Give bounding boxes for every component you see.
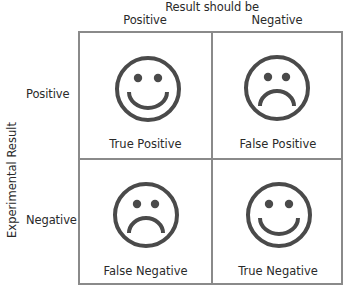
- confusion-matrix-grid: True Positive False Positive False Negat…: [78, 31, 343, 285]
- cell-label: False Positive: [213, 137, 343, 151]
- smiley-face-icon: [244, 180, 314, 250]
- cell-false-positive: False Positive: [213, 33, 343, 158]
- row-label-positive: Positive: [26, 87, 70, 101]
- cell-label: True Positive: [80, 137, 211, 151]
- frowning-face-icon: [111, 180, 181, 250]
- smiley-face-icon: [113, 54, 183, 124]
- cell-true-negative: True Negative: [213, 160, 343, 285]
- frowning-face-icon: [242, 53, 312, 123]
- cell-label: False Negative: [80, 264, 211, 278]
- column-label-negative: Negative: [252, 13, 303, 27]
- column-label-positive: Positive: [123, 13, 167, 27]
- column-axis-title: Result should be: [165, 0, 259, 14]
- row-axis-title: Experimental Result: [5, 122, 19, 238]
- row-label-negative: Negative: [26, 213, 77, 227]
- cell-true-positive: True Positive: [80, 33, 211, 158]
- cell-false-negative: False Negative: [80, 160, 211, 285]
- cell-label: True Negative: [213, 264, 343, 278]
